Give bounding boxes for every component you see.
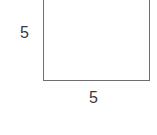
square-shape	[43, 0, 150, 81]
bottom-side-length-label: 5	[89, 90, 98, 106]
left-side-length-label: 5	[20, 25, 29, 41]
